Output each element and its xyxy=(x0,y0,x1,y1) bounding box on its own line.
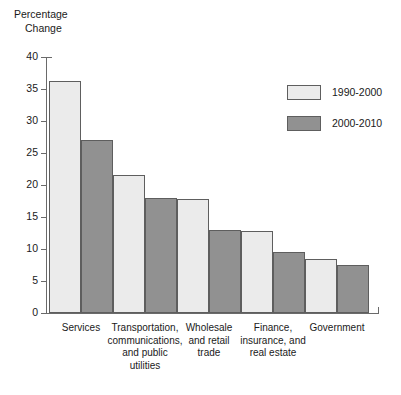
y-tick-label: 40 xyxy=(14,50,38,62)
y-tick-label: 35 xyxy=(14,82,38,94)
bar-1990-2000-group-1 xyxy=(49,81,81,313)
category-label-line: insurance, and xyxy=(227,335,319,348)
y-tick-label: 15 xyxy=(14,210,38,222)
y-tick-label: 30 xyxy=(14,114,38,126)
legend-swatch-2000-2010 xyxy=(287,116,321,131)
bar-2000-2010-group-5 xyxy=(337,265,369,313)
category-label-line: utilities xyxy=(99,360,191,373)
bar-2000-2010-group-1 xyxy=(81,140,113,313)
y-tick-mark xyxy=(41,89,47,90)
bar-1990-2000-group-2 xyxy=(113,175,145,313)
y-tick-mark xyxy=(41,57,47,58)
y-axis-title-line-1: Percentage xyxy=(14,8,68,21)
legend-label-2000-2010: 2000-2010 xyxy=(332,117,382,129)
y-tick-mark xyxy=(41,153,47,154)
y-tick-mark xyxy=(41,217,47,218)
y-tick-mark xyxy=(41,313,47,314)
legend-swatch-1990-2000 xyxy=(287,85,321,100)
y-tick-label: 20 xyxy=(14,178,38,190)
bar-2000-2010-group-3 xyxy=(209,230,241,313)
y-tick-label: 10 xyxy=(14,242,38,254)
category-label-line: Government xyxy=(291,322,383,335)
x-axis-end-cap xyxy=(378,307,379,314)
y-tick-mark xyxy=(41,185,47,186)
y-axis-title-line-2: Change xyxy=(25,22,62,35)
bar-1990-2000-group-4 xyxy=(241,231,273,313)
bar-2000-2010-group-2 xyxy=(145,198,177,313)
y-tick-mark xyxy=(41,121,47,122)
x-axis-line xyxy=(46,313,379,314)
y-tick-label: 5 xyxy=(14,274,38,286)
y-tick-mark xyxy=(41,249,47,250)
legend-label-1990-2000: 1990-2000 xyxy=(332,86,382,98)
y-tick-label: 0 xyxy=(14,306,38,318)
bar-1990-2000-group-3 xyxy=(177,199,209,313)
y-tick-label: 25 xyxy=(14,146,38,158)
bar-1990-2000-group-5 xyxy=(305,259,337,313)
bar-2000-2010-group-4 xyxy=(273,252,305,313)
bar-chart: Percentage Change 4035302520151050 Servi… xyxy=(0,0,401,395)
y-tick-mark xyxy=(41,281,47,282)
category-label-5: Government xyxy=(291,322,383,335)
category-label-line: real estate xyxy=(227,347,319,360)
